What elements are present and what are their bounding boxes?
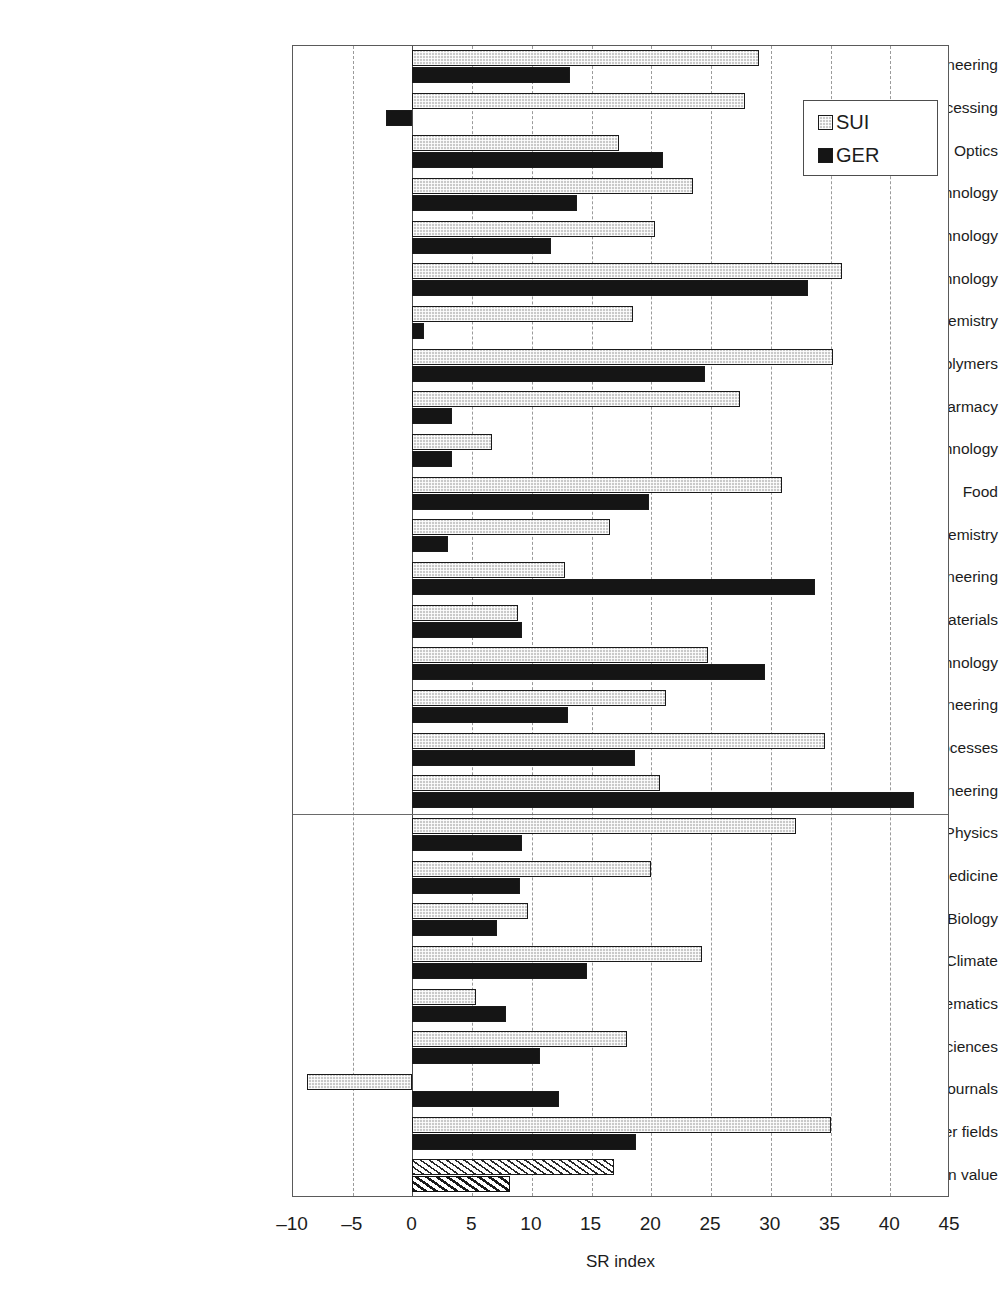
legend-label-sui: SUI — [836, 112, 869, 132]
bar-sui — [412, 690, 665, 706]
bar-sui — [412, 434, 492, 450]
bar-sui — [412, 562, 565, 578]
bar-ger — [412, 835, 522, 851]
bar-sui — [412, 93, 744, 109]
bar-group — [293, 178, 948, 215]
value-axis: –10–5051015202530354045 — [292, 1197, 949, 1257]
bar-sui — [412, 178, 693, 194]
bar-ger — [412, 1091, 559, 1107]
bar-sui — [412, 861, 651, 877]
bar-group — [293, 818, 948, 855]
bar-group — [293, 50, 948, 87]
bar-sui — [412, 1117, 830, 1133]
bar-ger — [412, 451, 451, 467]
bar-ger — [412, 195, 577, 211]
bar-ger — [412, 878, 520, 894]
bar-group — [293, 605, 948, 642]
bar-ger — [412, 536, 448, 552]
bar-group — [293, 733, 948, 770]
x-tick-label: 5 — [466, 1213, 477, 1235]
legend-swatch-sui-icon — [818, 115, 833, 130]
bar-group — [293, 1117, 948, 1154]
bar-sui — [412, 391, 739, 407]
bar-sui — [412, 519, 609, 535]
bar-sui — [412, 263, 842, 279]
bar-ger — [412, 792, 914, 808]
bar-sui — [412, 1031, 627, 1047]
x-tick-label: 20 — [640, 1213, 661, 1235]
x-tick-label: –5 — [341, 1213, 362, 1235]
bar-sui — [412, 135, 619, 151]
bar-ger — [412, 494, 649, 510]
bar-group — [293, 903, 948, 940]
bar-ger — [412, 238, 551, 254]
bar-group — [293, 1074, 948, 1111]
bar-sui — [412, 477, 781, 493]
legend-entry-ger: GER — [818, 145, 879, 165]
legend-entry-sui: SUI — [818, 112, 869, 132]
bar-sui — [412, 50, 758, 66]
bar-ger — [412, 67, 570, 83]
bar-group — [293, 519, 948, 556]
x-tick-label: 45 — [938, 1213, 959, 1235]
bar-group — [293, 647, 948, 684]
bar-sui — [412, 946, 701, 962]
bar-ger — [412, 1176, 510, 1192]
bar-group — [293, 263, 948, 300]
bar-sui — [412, 989, 475, 1005]
bar-group — [293, 690, 948, 727]
bar-ger — [412, 1006, 505, 1022]
bar-group — [293, 989, 948, 1026]
group-separator — [293, 814, 948, 815]
bar-ger — [412, 622, 522, 638]
x-tick-label: 40 — [879, 1213, 900, 1235]
legend-swatch-ger-icon — [818, 148, 833, 163]
bar-ger — [412, 750, 634, 766]
bar-group — [293, 434, 948, 471]
x-tick-label: 30 — [759, 1213, 780, 1235]
x-tick-label: 35 — [819, 1213, 840, 1235]
bar-ger — [412, 408, 451, 424]
bar-group — [293, 861, 948, 898]
bar-group — [293, 349, 948, 386]
bar-group — [293, 477, 948, 514]
x-tick-label: 10 — [520, 1213, 541, 1235]
bar-group — [293, 391, 948, 428]
bar-sui — [412, 605, 517, 621]
bar-group — [293, 562, 948, 599]
bar-ger — [412, 920, 497, 936]
bar-ger — [412, 1134, 635, 1150]
chart-page: Electrical EngineeringData ProcessingOpt… — [0, 0, 1008, 1314]
bar-ger — [412, 579, 815, 595]
bar-group — [293, 221, 948, 258]
bar-ger — [412, 1048, 540, 1064]
x-axis-title: SR index — [292, 1252, 949, 1272]
bar-sui — [412, 775, 659, 791]
bar-ger — [412, 366, 705, 382]
legend: SUI GER — [803, 100, 938, 176]
bar-ger — [412, 963, 586, 979]
bar-group — [293, 946, 948, 983]
bar-sui — [412, 306, 633, 322]
bar-sui — [412, 221, 654, 237]
x-tick-label: 0 — [406, 1213, 417, 1235]
bar-ger — [412, 323, 424, 339]
x-tick-label: 25 — [700, 1213, 721, 1235]
bar-ger — [412, 664, 764, 680]
bar-sui — [412, 647, 707, 663]
bar-sui — [412, 349, 832, 365]
bar-ger — [386, 110, 412, 126]
bar-ger — [412, 152, 663, 168]
x-tick-label: –10 — [276, 1213, 308, 1235]
legend-label-ger: GER — [836, 145, 879, 165]
bar-group — [293, 1031, 948, 1068]
bar-sui — [412, 733, 824, 749]
bar-group — [293, 1159, 948, 1196]
bar-sui — [412, 1159, 614, 1175]
bar-sui — [412, 903, 528, 919]
bar-ger — [412, 280, 807, 296]
bar-sui — [307, 1074, 412, 1090]
x-tick-label: 15 — [580, 1213, 601, 1235]
bar-sui — [412, 818, 795, 834]
bar-ger — [412, 707, 567, 723]
